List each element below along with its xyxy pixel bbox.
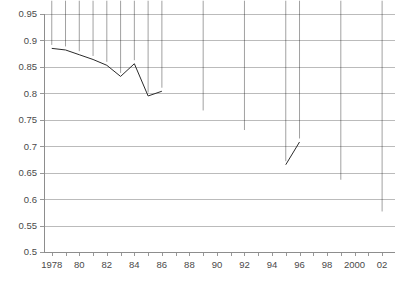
x-tick-label: 90: [212, 259, 223, 270]
x-tick-label: 86: [157, 259, 168, 270]
x-tick-label: 98: [322, 259, 333, 270]
x-tick-label: 92: [239, 259, 250, 270]
x-tick-label: 02: [377, 259, 388, 270]
y-tick-label: 0.9: [24, 35, 37, 46]
y-tick-label: 0.65: [19, 167, 38, 178]
y-tick-label: 0.75: [19, 114, 38, 125]
gridlines: [44, 15, 395, 253]
x-axis: [44, 252, 395, 256]
y-tick-label: 0.7: [24, 141, 37, 152]
y-tick-label: 0.6: [24, 194, 37, 205]
line-chart: 0.50.550.60.650.70.750.80.850.90.95 1978…: [0, 0, 405, 286]
y-tick-label: 0.85: [19, 61, 38, 72]
y-axis: [40, 14, 45, 253]
series-markers: [52, 1, 382, 212]
x-axis-tick-labels: 197880828486889092949698200002: [41, 259, 387, 270]
x-tick-label: 1978: [41, 259, 62, 270]
y-axis-tick-labels: 0.50.550.60.650.70.750.80.850.90.95: [19, 8, 38, 257]
y-tick-label: 0.5: [24, 246, 37, 257]
cropped-footer-caption: [3, 276, 203, 286]
x-tick-label: 80: [74, 259, 85, 270]
x-tick-label: 2000: [344, 259, 365, 270]
x-tick-label: 88: [184, 259, 195, 270]
x-tick-label: 96: [294, 259, 305, 270]
y-tick-label: 0.8: [24, 88, 37, 99]
x-tick-label: 82: [102, 259, 113, 270]
chart-container: 0.50.550.60.650.70.750.80.850.90.95 1978…: [0, 0, 405, 286]
x-tick-label: 84: [129, 259, 140, 270]
series-line-segment: [286, 142, 300, 165]
series-lines: [52, 48, 300, 164]
x-tick-label: 94: [267, 259, 278, 270]
y-tick-label: 0.95: [19, 8, 38, 19]
y-tick-label: 0.55: [19, 220, 38, 231]
